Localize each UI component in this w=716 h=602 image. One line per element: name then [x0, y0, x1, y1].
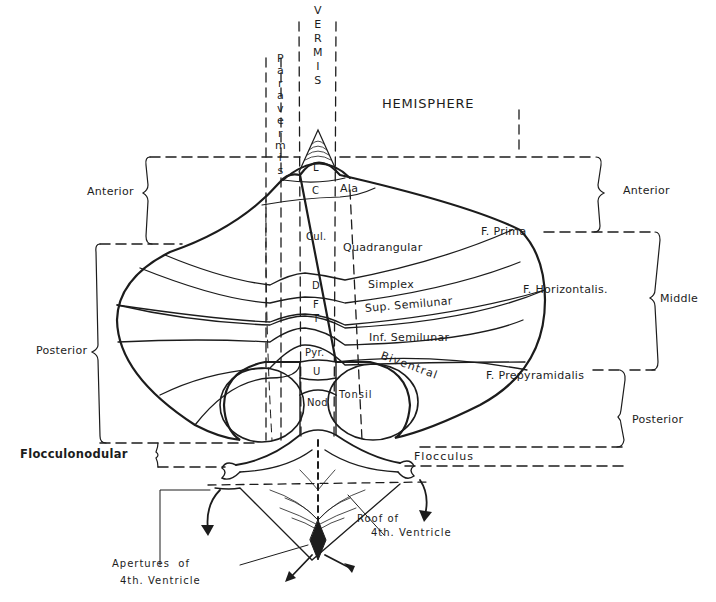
- paravermis-letter: i: [279, 152, 282, 164]
- vermis-letter: M: [313, 46, 323, 60]
- vermis-letter: V: [314, 4, 322, 18]
- lobule-quadrangular: Quadrangular: [343, 242, 422, 253]
- fissure-prima-label: F. Prima: [481, 226, 526, 237]
- cerebellum-diagram: [0, 0, 716, 602]
- paravermis-letter: s: [277, 165, 283, 177]
- vermis-letter: E: [314, 18, 321, 32]
- lobule-tonsil: Tonsil: [339, 390, 373, 400]
- lobule-folium: F: [313, 300, 319, 310]
- cerebellum-outline: [117, 163, 545, 441]
- lobule-culmen: Cul.: [306, 232, 326, 242]
- roof-label-line1: Roof of: [357, 514, 399, 524]
- flocculonodular-label: Flocculonodular: [20, 449, 128, 461]
- paravermis-letter: a: [277, 90, 284, 102]
- lobule-tuber: T: [313, 314, 319, 324]
- right-middle-label: Middle: [660, 293, 698, 304]
- lobule-lingula: L: [313, 163, 319, 173]
- vermis-letter: R: [314, 32, 322, 46]
- lobule-nodulus: Nod: [307, 398, 328, 408]
- left-posterior-label: Posterior: [36, 345, 87, 356]
- flocculus-label: Flocculus: [414, 451, 474, 462]
- lobule-declive: D: [312, 281, 320, 291]
- paravermis-label: P a r a v e r m i s: [275, 53, 286, 177]
- roof-label-line2: 4th. Ventricle: [371, 528, 452, 538]
- fissure-prepyramidalis-label: F. Prepyramidalis: [486, 370, 584, 381]
- right-anterior-label: Anterior: [623, 185, 670, 196]
- apertures-label-line1: Apertures of: [112, 559, 190, 569]
- lobule-simplex: Simplex: [368, 279, 414, 290]
- vermis-label: V E R M I S: [313, 4, 323, 88]
- vermis-letter: I: [316, 60, 319, 74]
- paravermis-letter: a: [277, 65, 284, 77]
- lobule-pyramis: Pyr.: [305, 348, 325, 358]
- lobule-ala: Ala: [340, 183, 358, 194]
- fissure-horizontalis-label: F. Horizontalis.: [523, 284, 608, 295]
- apertures-label-line2: 4th. Ventricle: [120, 576, 201, 586]
- lobule-inf-semilunar: Inf. Semilunar: [369, 332, 449, 343]
- left-anterior-label: Anterior: [87, 186, 134, 197]
- vermis-letter: S: [314, 74, 321, 88]
- right-tonsil: [328, 364, 418, 440]
- right-posterior-label: Posterior: [632, 414, 683, 425]
- lobule-central: C: [312, 186, 319, 196]
- lobule-boundaries: [117, 230, 545, 425]
- lobule-uvula: U: [313, 367, 321, 377]
- paravermis-letter: e: [277, 115, 284, 127]
- hemisphere-label: HEMISPHERE: [382, 97, 474, 110]
